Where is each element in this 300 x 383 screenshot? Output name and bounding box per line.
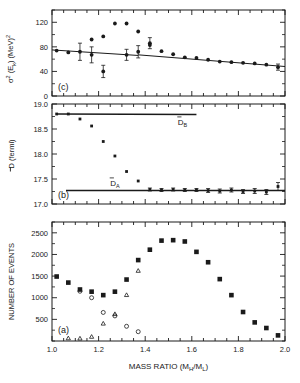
panel-frame-a bbox=[52, 222, 285, 341]
xtick-label: 2.0 bbox=[280, 345, 290, 354]
data-point-c bbox=[195, 56, 199, 60]
data-point-square-a bbox=[148, 247, 153, 252]
data-point-b bbox=[242, 190, 245, 193]
data-point-circle-a bbox=[101, 310, 105, 314]
data-point-c bbox=[125, 53, 129, 57]
data-point-c bbox=[253, 62, 257, 66]
figure-container: 1.01.21.41.61.82.0MASS RATIO (MH/ML)0408… bbox=[0, 0, 300, 383]
data-point-b bbox=[67, 113, 70, 116]
ytick-label-a: 500 bbox=[35, 315, 48, 324]
data-point-c bbox=[218, 60, 222, 64]
data-point-b bbox=[195, 189, 198, 192]
data-point-triangle-a bbox=[101, 321, 105, 325]
ytick-label-c: 80 bbox=[40, 43, 48, 52]
data-point-c bbox=[66, 50, 70, 54]
data-point-c bbox=[78, 50, 82, 54]
ytick-label-b: 17.0 bbox=[33, 200, 48, 209]
data-point-b bbox=[183, 189, 186, 192]
data-point-c bbox=[206, 58, 210, 62]
data-point-circle-a bbox=[136, 330, 140, 334]
data-point-square-a bbox=[252, 320, 257, 325]
data-point-c bbox=[230, 60, 234, 64]
data-point-c bbox=[136, 50, 140, 54]
data-point-b bbox=[148, 188, 151, 191]
data-point-square-a bbox=[183, 239, 188, 244]
panel-frame-b bbox=[52, 104, 285, 204]
ytick-label-c: 120 bbox=[35, 18, 48, 27]
curve-label-DB: DB bbox=[178, 118, 188, 128]
y-axis-title-c: σ2 (Ek) (MeV)2 bbox=[5, 35, 17, 83]
data-point-b bbox=[253, 190, 256, 193]
data-point-b bbox=[207, 189, 210, 192]
data-point-triangle-a bbox=[136, 269, 140, 273]
ytick-label-c: 40 bbox=[40, 67, 48, 76]
data-point-b bbox=[114, 155, 117, 158]
data-point-c bbox=[136, 30, 140, 34]
xtick-label: 1.4 bbox=[140, 345, 150, 354]
data-point-triangle-a bbox=[66, 336, 70, 340]
data-point-b bbox=[265, 191, 268, 194]
ytick-label-b: 19.0 bbox=[33, 100, 48, 109]
three-panel-figure: 1.01.21.41.61.82.0MASS RATIO (MH/ML)0408… bbox=[0, 0, 300, 383]
xtick-label: 1.6 bbox=[187, 345, 197, 354]
y-axis-title-a: NUMBER OF EVENTS bbox=[7, 243, 16, 320]
data-point-square-a bbox=[124, 277, 129, 282]
data-point-square-a bbox=[66, 280, 71, 285]
data-point-circle-a bbox=[90, 296, 94, 300]
data-point-c bbox=[171, 52, 175, 56]
data-point-c bbox=[148, 43, 152, 47]
ytick-label-a: 2500 bbox=[31, 229, 48, 238]
data-point-c bbox=[55, 49, 59, 53]
data-point-square-a bbox=[159, 238, 164, 243]
ytick-label-b: 18.0 bbox=[33, 150, 48, 159]
data-point-circle-a bbox=[125, 324, 129, 328]
data-point-square-a bbox=[89, 289, 94, 294]
data-point-c bbox=[264, 63, 268, 67]
y-axis-title-b: D (fermi) bbox=[7, 139, 16, 169]
data-point-b bbox=[137, 180, 140, 183]
panel-tag-c: (c) bbox=[58, 82, 69, 92]
xtick-label: 1.2 bbox=[93, 345, 103, 354]
data-point-square-a bbox=[206, 260, 211, 265]
ytick-label-a: 2000 bbox=[31, 250, 48, 259]
data-point-triangle-a bbox=[124, 293, 128, 297]
data-point-b bbox=[172, 188, 175, 191]
data-point-triangle-a bbox=[90, 335, 94, 339]
data-point-c bbox=[183, 55, 187, 59]
data-point-square-a bbox=[101, 293, 106, 298]
data-point-b bbox=[277, 185, 280, 188]
ytick-label-a: 1500 bbox=[31, 272, 48, 281]
panel-tag-b: (b) bbox=[58, 190, 69, 200]
data-point-triangle-a bbox=[78, 336, 82, 340]
data-point-c bbox=[90, 53, 94, 57]
data-point-square-a bbox=[276, 333, 281, 338]
data-point-c bbox=[101, 35, 105, 39]
data-point-square-a bbox=[171, 238, 176, 243]
curve-label-DA: DA bbox=[110, 179, 120, 189]
data-point-c bbox=[90, 38, 94, 42]
data-point-b bbox=[102, 140, 105, 143]
data-point-c bbox=[241, 61, 245, 65]
data-point-c bbox=[113, 22, 117, 26]
ytick-label-a: 1000 bbox=[31, 293, 48, 302]
data-point-square-a bbox=[194, 250, 199, 255]
data-point-c bbox=[101, 70, 105, 74]
xtick-label: 1.8 bbox=[233, 345, 243, 354]
data-point-square-a bbox=[113, 289, 118, 294]
data-point-square-a bbox=[229, 293, 234, 298]
data-point-square-a bbox=[54, 274, 59, 279]
data-point-square-a bbox=[136, 258, 141, 263]
data-point-b bbox=[55, 113, 58, 116]
data-point-b bbox=[90, 125, 93, 128]
panel-tag-a: (a) bbox=[58, 325, 69, 335]
data-point-c bbox=[125, 22, 129, 26]
x-axis-title: MASS RATIO (MH/ML) bbox=[129, 362, 209, 372]
xtick-label: 1.0 bbox=[47, 345, 57, 354]
data-point-b bbox=[218, 190, 221, 193]
data-point-b bbox=[230, 189, 233, 192]
ytick-label-b: 18.5 bbox=[33, 125, 48, 134]
data-point-b bbox=[125, 170, 128, 173]
data-point-square-a bbox=[241, 310, 246, 315]
data-point-b bbox=[79, 118, 82, 121]
panel-frame-c bbox=[52, 10, 285, 96]
